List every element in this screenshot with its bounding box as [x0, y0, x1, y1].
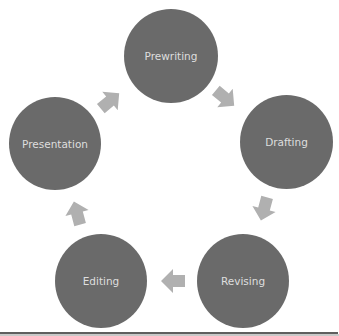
node-revising: Revising — [197, 234, 289, 328]
node-label-presentation: Presentation — [22, 138, 88, 150]
node-label-drafting: Drafting — [265, 136, 308, 148]
arrow-up-icon — [60, 196, 94, 230]
node-label-revising: Revising — [221, 275, 265, 287]
node-label-editing: Editing — [83, 275, 120, 287]
node-drafting: Drafting — [240, 95, 333, 189]
node-presentation: Presentation — [9, 97, 101, 190]
arrow-down-icon — [247, 192, 281, 226]
arrow-left-icon — [159, 267, 187, 295]
node-prewriting: Prewriting — [124, 9, 218, 103]
node-label-prewriting: Prewriting — [145, 50, 198, 62]
arrow-up-right-icon — [90, 81, 129, 120]
arrow-right-down-icon — [205, 78, 244, 117]
node-editing: Editing — [55, 234, 147, 328]
writing-process-cycle-diagram: Prewriting Drafting Revising Editing Pre… — [0, 0, 339, 336]
